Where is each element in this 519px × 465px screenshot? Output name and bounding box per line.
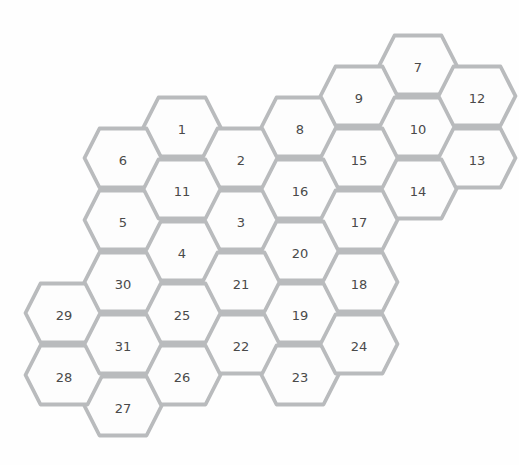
hex-grid-canvas: 1234567891011121314151617181920212223242… (0, 0, 519, 465)
hex-label: 24 (351, 339, 368, 354)
hex-label: 20 (292, 246, 309, 261)
hex-label: 27 (115, 401, 132, 416)
hex-label: 1 (178, 122, 186, 137)
hex-label: 7 (414, 60, 422, 75)
hex-label: 19 (292, 308, 309, 323)
hex-label: 21 (233, 277, 250, 292)
hex-label: 9 (355, 91, 363, 106)
hex-label: 23 (292, 370, 309, 385)
hex-label: 12 (469, 91, 486, 106)
hex-label: 31 (115, 339, 132, 354)
hex-label: 22 (233, 339, 250, 354)
hex-cell-11: 11 (144, 160, 221, 219)
hex-label: 6 (119, 153, 127, 168)
hex-label: 10 (410, 122, 427, 137)
hex-label: 29 (56, 308, 73, 323)
hex-cell-31: 31 (85, 315, 162, 374)
hex-label: 13 (469, 153, 486, 168)
hex-label: 2 (237, 153, 245, 168)
hex-cell-12: 12 (439, 67, 516, 126)
hex-label: 25 (174, 308, 191, 323)
hex-label: 26 (174, 370, 191, 385)
hex-label: 4 (178, 246, 186, 261)
hex-label: 30 (115, 277, 132, 292)
hex-label: 8 (296, 122, 304, 137)
hex-cell-24: 24 (321, 315, 398, 374)
hex-cell-30: 30 (85, 253, 162, 312)
hex-label: 18 (351, 277, 368, 292)
hex-label: 5 (119, 215, 127, 230)
hex-label: 17 (351, 215, 368, 230)
hex-label: 28 (56, 370, 73, 385)
hex-label: 11 (174, 184, 191, 199)
hex-grid-figure: 1234567891011121314151617181920212223242… (0, 0, 519, 465)
hex-label: 3 (237, 215, 245, 230)
hex-label: 14 (410, 184, 427, 199)
hex-label: 15 (351, 153, 368, 168)
hex-label: 16 (292, 184, 309, 199)
